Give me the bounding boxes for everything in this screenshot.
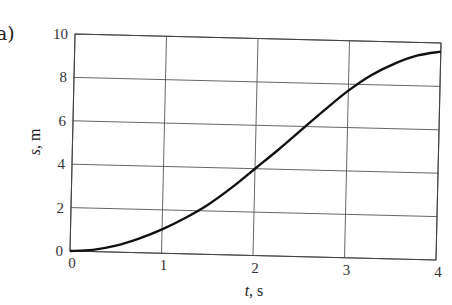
plot-area — [70, 34, 441, 260]
displacement-time-chart: 01234 0246810 t, s s, m — [0, 0, 452, 305]
y-axis-label: s, m — [26, 128, 43, 155]
y-tick-labels: 0246810 — [53, 26, 68, 259]
x-tick-label: 1 — [160, 257, 168, 273]
grid-line-vertical — [345, 41, 350, 258]
grid-line-vertical — [162, 36, 167, 253]
grid-line-vertical — [253, 39, 258, 256]
x-tick-label: 4 — [434, 264, 442, 280]
y-tick-label: 2 — [57, 200, 65, 216]
x-tick-label: 3 — [343, 262, 351, 278]
y-tick-label: 0 — [56, 243, 64, 259]
y-tick-label: 10 — [53, 26, 68, 42]
x-tick-label: 0 — [68, 255, 76, 271]
y-tick-label: 8 — [60, 69, 68, 85]
y-tick-label: 6 — [59, 113, 67, 129]
y-tick-label: 4 — [58, 156, 66, 172]
x-tick-label: 2 — [251, 260, 259, 276]
x-axis-label: t, s — [245, 282, 264, 299]
